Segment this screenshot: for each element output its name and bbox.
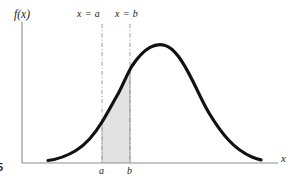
guide-label-x-equals-a: x = a bbox=[77, 9, 100, 19]
guide-label-x-equals-b: x = b bbox=[115, 9, 138, 19]
x-axis-tick-label-a: a bbox=[99, 166, 104, 176]
density-curve-path bbox=[48, 45, 261, 161]
figure-container: f(x) x x = a x = b a b 5 bbox=[0, 0, 299, 188]
density-curve-chart bbox=[0, 0, 299, 188]
figure-number-partial: 5 bbox=[0, 161, 3, 173]
x-axis-label: x bbox=[281, 153, 286, 164]
y-axis-label: f(x) bbox=[14, 9, 30, 21]
x-axis-tick-label-b: b bbox=[127, 166, 132, 176]
